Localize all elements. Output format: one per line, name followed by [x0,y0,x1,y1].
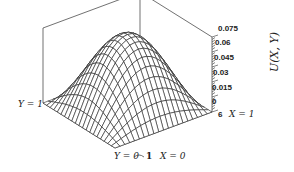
tick-connector [0,0,294,172]
connector-line [134,155,144,157]
